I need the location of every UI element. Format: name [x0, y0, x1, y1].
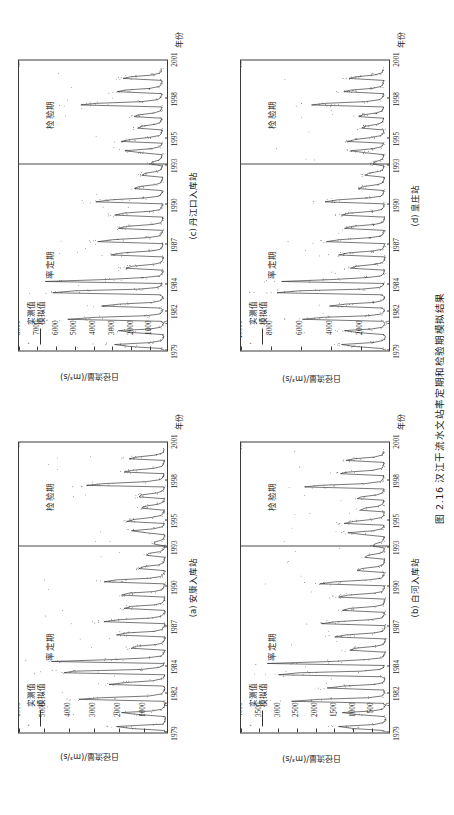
y-tick-label: 4000	[64, 702, 72, 733]
panel-d: 率定期 检验期 · 实测值 模拟值 0200040006000800010000…	[240, 55, 422, 385]
x-tick-label: 1987	[171, 611, 179, 643]
x-tickmark	[165, 204, 168, 205]
y-tick-label: 2000	[311, 702, 319, 733]
x-tickmark	[387, 310, 390, 311]
x-tick-label: 2001	[393, 43, 401, 75]
x-tickmark	[387, 586, 390, 587]
y-tick-label: 2500	[292, 702, 300, 733]
ylabel-c: 日径流量/(m³/s)	[40, 372, 140, 383]
y-tick-label: 4000	[240, 702, 244, 733]
y-tick-label: 4000	[89, 320, 97, 351]
y-tick-label: 1000	[145, 320, 153, 351]
x-tick-label: 1984	[171, 269, 179, 301]
x-tickmark	[387, 665, 390, 666]
y-tick-label: 1000	[139, 702, 147, 733]
x-tick-label: 2001	[171, 43, 179, 75]
y-tick-label: 6000	[18, 702, 22, 733]
x-tickmark	[387, 137, 390, 138]
x-tickmark	[387, 546, 390, 547]
x-tick-label: 1998	[393, 83, 401, 115]
subcaption-d: (d) 皇庄站	[408, 59, 420, 351]
x-tick-label: 1995	[393, 505, 401, 537]
y-tick-label: 8000	[266, 320, 274, 351]
x-tick-label: 1998	[393, 465, 401, 497]
x-tickmark	[165, 665, 168, 666]
y-tick-label: 1000	[349, 702, 357, 733]
x-tickmark	[165, 519, 168, 520]
subcaption-c: (c) 丹江口入库站	[186, 59, 198, 351]
calibration-label-d: 率定期	[265, 250, 277, 279]
x-tickmark	[387, 350, 390, 351]
x-tickmark	[387, 164, 390, 165]
legend-d: · 实测值 模拟值	[247, 300, 267, 344]
x-tickmark	[165, 692, 168, 693]
ylabel-b: 日径流量/(m³/s)	[262, 754, 362, 765]
y-tick-label: 0	[386, 320, 390, 351]
legend-row-observed-d: · 实测值	[247, 300, 257, 344]
x-tick-label: 1987	[171, 229, 179, 261]
plot-area-c: 率定期 检验期 · 实测值 模拟值 0100020003000400050006…	[18, 59, 168, 351]
validation-label-d: 检验期	[265, 100, 277, 129]
y-tick-label: 6000	[296, 320, 304, 351]
x-tick-label: 1979	[171, 717, 179, 749]
y-tick-label: 0	[164, 320, 168, 351]
plot-area-d: 率定期 检验期 · 实测值 模拟值 0200040006000800010000	[240, 59, 390, 351]
x-tick-label: 1995	[393, 123, 401, 155]
panel-c: 率定期 检验期 · 实测值 模拟值 0100020003000400050006…	[18, 55, 200, 385]
y-tick-label: 7000	[33, 320, 41, 351]
simulated-series-line	[267, 451, 386, 732]
x-tick-label: 1998	[171, 83, 179, 115]
x-tick-label: 1990	[171, 571, 179, 603]
ylabel-a: 日径流量/(m³/s)	[40, 752, 140, 763]
y-tick-label: 3000	[274, 702, 282, 733]
x-tick-label: 1987	[393, 611, 401, 643]
y-tick-label: 500	[367, 702, 375, 733]
x-tickmark	[387, 97, 390, 98]
calibration-label-b: 率定期	[265, 632, 277, 661]
x-tick-label: 1984	[393, 269, 401, 301]
page-rotation-wrapper: 率定期 检验期 · 实测值 模拟值 0100020003000400050006…	[0, 0, 454, 815]
x-tickmark	[165, 137, 168, 138]
x-tickmark	[165, 732, 168, 733]
x-tick-label: 1990	[393, 189, 401, 221]
x-tick-label: 1979	[393, 335, 401, 367]
ylabel-d: 日径流量/(m³/s)	[262, 374, 362, 385]
y-tick-label: 1500	[330, 702, 338, 733]
simulated-line-icon	[262, 328, 263, 344]
panel-b: 率定期 检验期 · 实测值 模拟值 0500100015002000250030…	[240, 437, 422, 767]
y-tick-label: 6000	[52, 320, 60, 351]
x-tick-label: 1990	[171, 189, 179, 221]
x-tick-label: 1998	[171, 465, 179, 497]
x-tickmark	[165, 243, 168, 244]
x-tickmark	[387, 479, 390, 480]
x-tickmark	[165, 625, 168, 626]
y-tick-label: 10000	[240, 320, 244, 351]
y-tick-label: 0	[386, 702, 390, 733]
y-tick-label: 5000	[39, 702, 47, 733]
observed-marker-icon: ·	[26, 710, 34, 726]
x-tick-label: 1995	[171, 123, 179, 155]
x-tick-label: 2001	[171, 425, 179, 457]
y-tick-label: 8000	[18, 320, 22, 351]
x-tickmark	[387, 283, 390, 284]
figure-container: 率定期 检验期 · 实测值 模拟值 0100020003000400050006…	[0, 0, 454, 815]
x-tickmark	[165, 546, 168, 547]
subcaption-a: (a) 安康入库站	[186, 441, 198, 733]
y-tick-label: 3000	[108, 320, 116, 351]
y-tick-label: 3000	[89, 702, 97, 733]
x-tickmark	[387, 692, 390, 693]
y-tick-label: 2000	[356, 320, 364, 351]
legend-row-observed-a: · 实测值	[25, 682, 35, 726]
subcaption-b: (b) 白河入库站	[408, 441, 420, 733]
x-tickmark	[165, 164, 168, 165]
x-tickmark	[387, 204, 390, 205]
x-tickmark	[165, 97, 168, 98]
simulated-series-line	[45, 69, 164, 350]
y-tick-label: 5000	[70, 320, 78, 351]
y-tick-label: 2000	[127, 320, 135, 351]
y-tick-label: 4000	[326, 320, 334, 351]
x-tickmark	[165, 350, 168, 351]
x-tick-label: 1990	[393, 571, 401, 603]
x-tickmark	[165, 586, 168, 587]
y-tick-label: 0	[164, 702, 168, 733]
